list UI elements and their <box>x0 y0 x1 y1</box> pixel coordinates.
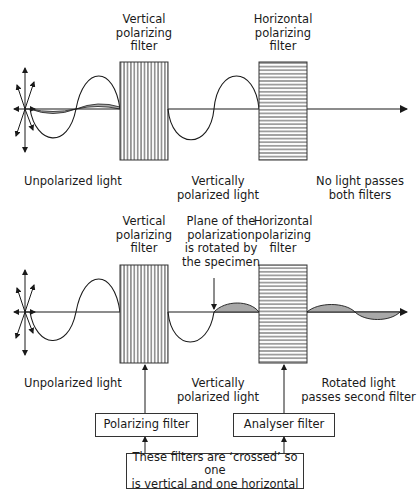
top-vertical-caption: Vertically polarized light <box>168 175 268 202</box>
bottom-vertical-caption: Vertically polarized light <box>168 377 268 404</box>
crossed-filters-note-box: These filters are ‘crossed’ so one is ve… <box>126 453 304 489</box>
analyser-filter-box: Analyser filter <box>233 413 335 437</box>
top-vertical-filter-label: Vertical polarizing filter <box>104 13 184 54</box>
label-line: polarizing <box>104 27 184 41</box>
label-line: filter <box>243 40 323 54</box>
top-horizontal-filter-label: Horizontal polarizing filter <box>243 13 323 54</box>
label-line: polarizing <box>243 229 323 243</box>
transmitted-wave <box>307 305 400 320</box>
label-line: filter <box>104 242 184 256</box>
bottom-unpolarized-caption: Unpolarized light <box>18 377 128 391</box>
bottom-vertical-filter-label: Vertical polarizing filter <box>104 215 184 256</box>
label-line: filter <box>243 242 323 256</box>
label-line: Vertical <box>104 13 184 27</box>
label-line: filter <box>104 40 184 54</box>
vertical-polarized-wave <box>168 76 259 140</box>
label-line: Vertical <box>104 215 184 229</box>
label-line: polarizing <box>243 27 323 41</box>
label-line: polarized light <box>168 189 268 203</box>
label-line: is vertical and one horizontal <box>131 478 298 492</box>
label-line: polarizing <box>104 229 184 243</box>
horizontal-filter <box>259 62 307 160</box>
vertical-filter-2 <box>120 265 168 363</box>
horizontal-filter-2 <box>259 265 307 363</box>
top-result-caption: No light passes both filters <box>305 175 415 202</box>
label-line: passes second filter <box>300 391 417 405</box>
top-unpolarized-caption: Unpolarized light <box>18 175 128 189</box>
label-line: Vertically <box>168 377 268 391</box>
bottom-horizontal-filter-label: Horizontal polarizing filter <box>243 215 323 256</box>
rotated-wave <box>214 303 259 312</box>
vertical-polarized-wave-2 <box>168 312 214 342</box>
label-line: both filters <box>305 189 415 203</box>
label-line: These filters are ‘crossed’ so one <box>127 451 303 478</box>
label-line: No light passes <box>305 175 415 189</box>
bottom-result-caption: Rotated light passes second filter <box>300 377 417 404</box>
top-panel <box>14 62 407 160</box>
label-line: Horizontal <box>243 13 323 27</box>
label-line: the specimen <box>176 256 266 270</box>
label-line: polarized light <box>168 391 268 405</box>
polarizing-filter-box: Polarizing filter <box>95 413 198 437</box>
label-line: Horizontal <box>243 215 323 229</box>
bottom-panel <box>14 265 407 453</box>
label-line: Vertically <box>168 175 268 189</box>
vertical-filter <box>120 62 168 160</box>
vertical-wave-incoming-2 <box>30 279 120 341</box>
label-line: Rotated light <box>300 377 417 391</box>
